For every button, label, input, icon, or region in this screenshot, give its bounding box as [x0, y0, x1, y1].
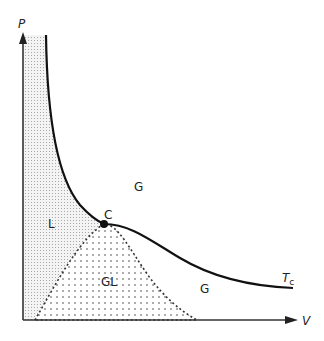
pv-diagram: P V C G L GL G Tc — [0, 0, 324, 341]
region-label-liquid: L — [48, 217, 55, 231]
region-label-coexistence: GL — [101, 275, 117, 289]
isotherm-label: Tc — [282, 271, 294, 287]
y-axis-label: P — [18, 17, 26, 31]
region-label-gas-lower: G — [200, 282, 209, 296]
x-axis-arrow-icon — [285, 316, 298, 324]
region-label-gas-upper: G — [134, 180, 143, 194]
critical-point-label: C — [104, 208, 112, 222]
x-axis-label: V — [302, 314, 311, 328]
